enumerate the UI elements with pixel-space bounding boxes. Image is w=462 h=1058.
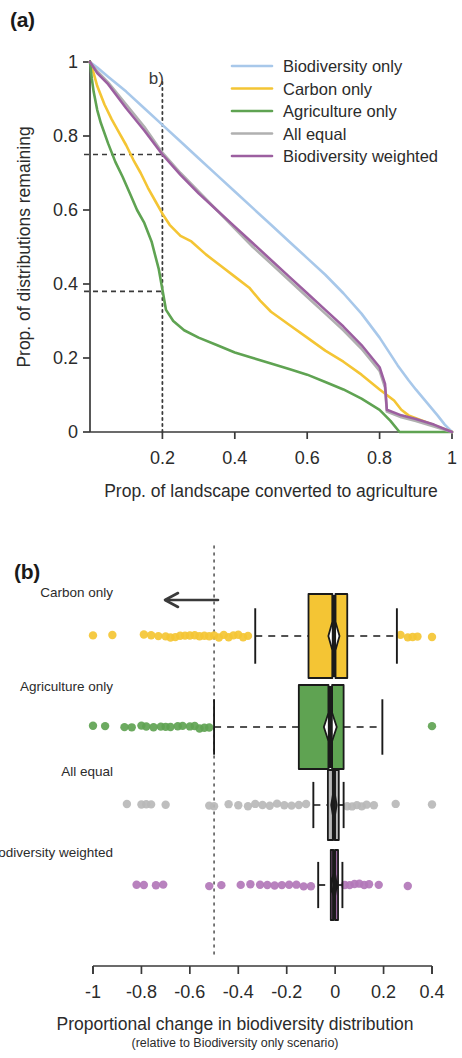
panel-b-box-left	[309, 594, 333, 678]
panel-a-y-tick-label: 0.2	[53, 348, 78, 368]
panel-b-outlier-point	[295, 801, 303, 809]
panel-b-outlier-point	[89, 631, 97, 639]
panel-b-box-right	[335, 594, 347, 678]
panel-b-outlier-point	[365, 880, 373, 888]
panel-b-outlier-point	[292, 880, 300, 888]
panel-a-y-tick-label: 0.8	[53, 126, 78, 146]
panel-b-x-tick-label: 0	[330, 982, 340, 1002]
panel-b-row-all-equal	[123, 770, 436, 840]
panel-a-b-annotation: b)	[149, 69, 164, 88]
panel-b-outlier-point	[278, 881, 286, 889]
panel-b-outlier-point	[370, 801, 378, 809]
panel-b-row-label: All equal	[61, 764, 113, 779]
panel-b-row-label: Carbon only	[40, 585, 113, 600]
panel-b-outlier-point	[217, 881, 225, 889]
panel-a-series-carbon-only	[90, 62, 452, 432]
panel-b-x-tick-label: 0.2	[371, 982, 396, 1002]
panel-b-x-tick-label: -0.2	[271, 982, 302, 1002]
panel-b-outlier-point	[307, 882, 315, 890]
panel-b-outlier-point	[428, 633, 436, 641]
panel-b-outlier-point	[132, 881, 140, 889]
panel-b-outlier-point	[413, 632, 421, 640]
panel-b-outlier-point	[244, 632, 252, 640]
panel-a-y-tick-label: 0.6	[53, 200, 78, 220]
panel-b-outlier-point	[147, 800, 155, 808]
panel-b-outlier-point	[287, 801, 295, 809]
panel-b-outlier-point	[302, 800, 310, 808]
panel-b-box-right	[332, 685, 344, 769]
panel-a-plot: 00.20.40.60.810.20.40.60.81b)Prop. of la…	[0, 0, 462, 520]
panel-a-x-tick-label: 0.6	[295, 448, 320, 468]
panel-a-x-tick-label: 1	[447, 448, 457, 468]
panel-b-plot: Carbon onlyAgriculture onlyAll equalBiod…	[0, 520, 462, 1058]
panel-b-outlier-point	[101, 722, 109, 730]
panel-a-y-tick-label: 0.4	[53, 274, 78, 294]
panel-b-outlier-point	[140, 630, 148, 638]
panel-b-outlier-point	[154, 632, 162, 640]
panel-b-x-axis-subtitle: (relative to Biodiversity only scenario)	[131, 1036, 338, 1050]
panel-b-outlier-point	[234, 801, 242, 809]
panel-a-legend-label: All equal	[283, 125, 346, 143]
panel-a-y-tick-label: 1	[68, 52, 78, 72]
panel-b-outlier-point	[263, 881, 271, 889]
panel-b-outlier-point	[108, 631, 116, 639]
panel-b-outlier-point	[224, 800, 232, 808]
panel-b-outlier-point	[205, 882, 213, 890]
panel-b-outlier-point	[273, 799, 281, 807]
panel-b-outlier-point	[161, 800, 169, 808]
panel-b-outlier-point	[251, 800, 259, 808]
panel-b-outlier-point	[375, 881, 383, 889]
panel-b-outlier-point	[246, 880, 254, 888]
panel-b-outlier-point	[159, 880, 167, 888]
panel-b-x-tick-label: -0.6	[174, 982, 205, 1002]
panel-b-outlier-point	[152, 881, 160, 889]
panel-a-legend-label: Biodiversity weighted	[283, 147, 438, 165]
panel-b-x-tick-label: 0.4	[419, 982, 444, 1002]
panel-b-outlier-point	[391, 800, 399, 808]
panel-b-outlier-point	[237, 881, 245, 889]
panel-a-x-axis-title: Prop. of landscape converted to agricult…	[104, 481, 438, 501]
panel-b-x-tick-label: -0.8	[126, 982, 157, 1002]
panel-b-outlier-point	[210, 802, 218, 810]
panel-b-row-label: Agriculture only	[20, 679, 113, 694]
panel-a-series-biodiversity-only	[90, 62, 452, 432]
panel-a-legend-label: Carbon only	[283, 80, 373, 98]
panel-b: (b) Carbon onlyAgriculture onlyAll equal…	[0, 520, 462, 1058]
panel-b-outlier-point	[149, 723, 157, 731]
panel-a-x-tick-label: 0.4	[222, 448, 247, 468]
panel-b-outlier-point	[404, 882, 412, 890]
panel-b-row-label: Biodiversity weighted	[0, 845, 113, 860]
panel-b-outlier-point	[285, 881, 293, 889]
panel-b-row-carbon-only	[89, 594, 436, 678]
panel-a-legend-label: Biodiversity only	[283, 57, 403, 75]
panel-b-outlier-point	[428, 800, 436, 808]
panel-a-series-biodiversity-weighted	[90, 62, 452, 432]
figure-root: (a) 00.20.40.60.810.20.40.60.81b)Prop. o…	[0, 0, 462, 1058]
panel-b-outlier-point	[128, 723, 136, 731]
panel-b-outlier-point	[280, 801, 288, 809]
panel-b-outlier-point	[428, 722, 436, 730]
panel-a-x-tick-label: 0.8	[367, 448, 392, 468]
panel-a-y-tick-label: 0	[68, 422, 78, 442]
panel-b-outlier-point	[120, 723, 128, 731]
panel-a-x-tick-label: 0.2	[150, 448, 175, 468]
panel-b-outlier-point	[270, 881, 278, 889]
panel-b-outlier-point	[244, 802, 252, 810]
panel-b-x-axis-title: Proportional change in biodiversity dist…	[56, 1014, 413, 1034]
panel-b-outlier-point	[266, 801, 274, 809]
panel-b-outlier-point	[140, 881, 148, 889]
panel-b-outlier-point	[258, 801, 266, 809]
panel-a-series-all-equal	[90, 62, 452, 432]
panel-b-outlier-point	[362, 800, 370, 808]
panel-a-y-axis-title: Prop. of distributions remaining	[14, 126, 34, 367]
panel-a: (a) 00.20.40.60.810.20.40.60.81b)Prop. o…	[0, 0, 462, 520]
panel-b-outlier-point	[256, 881, 264, 889]
panel-b-outlier-point	[89, 721, 97, 729]
panel-b-outlier-point	[142, 722, 150, 730]
panel-b-x-tick-label: -0.4	[223, 982, 254, 1002]
panel-b-outlier-point	[205, 723, 213, 731]
panel-a-series-agriculture-only	[90, 62, 452, 432]
panel-b-row-agriculture-only	[89, 685, 436, 769]
panel-b-outlier-point	[147, 631, 155, 639]
panel-b-box-left	[299, 685, 329, 769]
